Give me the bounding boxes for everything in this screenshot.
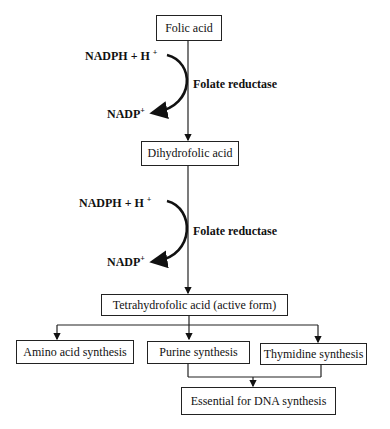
cofactor-in-1-sup: + (153, 48, 158, 57)
node-dna-synthesis: Essential for DNA synthesis (181, 387, 336, 415)
cofactor-in-2-sup: + (147, 195, 152, 204)
cofactor-in-1: NADPH + H + (85, 48, 157, 64)
enzyme-label-2: Folate reductase (193, 224, 277, 239)
cofactor-out-1-sup: + (140, 106, 145, 115)
node-folic-acid: Folic acid (156, 15, 222, 41)
cofactor-in-1-text: NADPH + H (85, 49, 150, 63)
cofactor-out-2-sup: + (140, 254, 145, 263)
node-amino-acid-synthesis: Amino acid synthesis (16, 340, 134, 364)
cofactor-out-2: NADP+ (107, 254, 145, 270)
node-dihydrofolic-acid: Dihydrofolic acid (141, 141, 239, 166)
node-thymidine-synthesis: Thymidine synthesis (260, 343, 367, 365)
node-purine-synthesis: Purine synthesis (147, 341, 250, 364)
cofactor-out-2-text: NADP (107, 255, 140, 269)
node-tetrahydrofolic-acid: Tetrahydrofolic acid (active form) (101, 294, 288, 316)
enzyme-label-1: Folate reductase (193, 77, 277, 92)
cofactor-in-2-text: NADPH + H (79, 196, 144, 210)
cofactor-out-1: NADP+ (107, 106, 145, 122)
cofactor-in-2: NADPH + H + (79, 195, 151, 211)
cofactor-out-1-text: NADP (107, 107, 140, 121)
